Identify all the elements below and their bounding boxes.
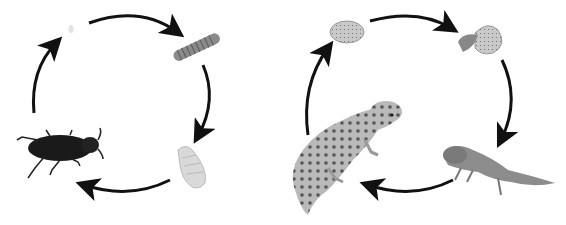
arrow-adult-to-egg bbox=[33, 43, 56, 113]
juvenile-gecko bbox=[443, 146, 555, 195]
arrow-egg-to-larva bbox=[89, 16, 177, 32]
gecko-life-cycle bbox=[283, 0, 566, 225]
arrow-adult-to-egg bbox=[307, 48, 328, 135]
adult-beetle bbox=[17, 128, 103, 178]
beetle-larva bbox=[172, 32, 222, 63]
adult-gecko bbox=[293, 101, 402, 215]
arrow-larva-to-pupa bbox=[198, 65, 209, 136]
beetle-egg bbox=[69, 25, 74, 33]
arrow-pupa-to-adult bbox=[84, 180, 170, 191]
arrow-egg-to-hatching bbox=[370, 16, 451, 28]
beetle-life-cycle bbox=[0, 0, 283, 225]
arrow-hatching-to-juvenile bbox=[501, 60, 511, 140]
gecko-hatching bbox=[458, 26, 502, 54]
gecko-egg bbox=[330, 21, 364, 43]
beetle-pupa bbox=[178, 146, 206, 187]
arrow-juvenile-to-adult bbox=[368, 180, 453, 191]
